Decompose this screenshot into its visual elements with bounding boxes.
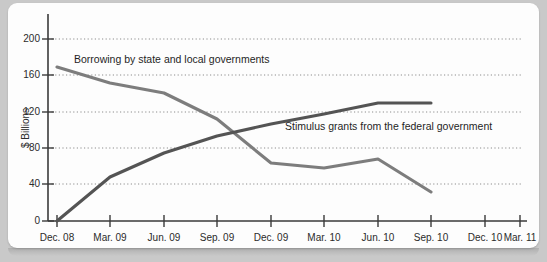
x-tick-label-mar-10: Mar. 10 <box>299 232 349 243</box>
y-tick-label-0: 0 <box>16 215 40 226</box>
x-tick-label-dec-08: Dec. 08 <box>32 232 82 243</box>
y-tick-label-40: 40 <box>16 178 40 189</box>
x-tick-label-mar-09: Mar. 09 <box>85 232 135 243</box>
y-tick-label-200: 200 <box>16 33 40 44</box>
y-tick-label-80: 80 <box>16 142 40 153</box>
x-tick-label-dec-09: Dec. 09 <box>246 232 296 243</box>
x-tick-label-jun-09: Jun. 09 <box>139 232 189 243</box>
x-tick-label-sep-10: Sep. 10 <box>406 232 456 243</box>
y-tick-label-160: 160 <box>16 69 40 80</box>
x-tick-label-jun-10: Jun. 10 <box>353 232 403 243</box>
borrowing-annotation: Borrowing by state and local governments <box>74 53 270 65</box>
y-tick-label-120: 120 <box>16 106 40 117</box>
stimulus-annotation: Stimulus grants from the federal governm… <box>285 120 492 132</box>
x-tick-label-sep-09: Sep. 09 <box>192 232 242 243</box>
x-tick-label-mar-11: Mar. 11 <box>495 232 545 243</box>
